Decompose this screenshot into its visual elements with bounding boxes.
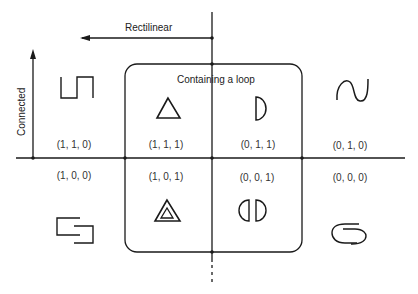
quadrant-code: (1, 1, 1) bbox=[149, 139, 183, 150]
quadrant-code: (1, 0, 1) bbox=[149, 171, 183, 182]
quadrant-code: (1, 0, 0) bbox=[57, 170, 91, 181]
triangle-icon bbox=[157, 98, 180, 118]
interlocked-curves-icon bbox=[332, 224, 366, 244]
rectilinear-label: Rectilinear bbox=[125, 22, 172, 33]
square-wave-icon bbox=[61, 77, 93, 98]
interlocked-brackets-icon bbox=[57, 218, 93, 243]
quadrant-code: (0, 1, 0) bbox=[333, 140, 367, 151]
loop-region-label: Containing a loop bbox=[177, 74, 255, 85]
triangle-icon bbox=[156, 98, 180, 118]
connected-label: Connected bbox=[16, 88, 27, 136]
quadrant-code: (1, 1, 0) bbox=[57, 139, 91, 150]
split-circle-icon bbox=[239, 200, 266, 221]
rectilinear-arrow bbox=[80, 35, 214, 41]
quadrant-code: (0, 1, 1) bbox=[241, 139, 275, 150]
d-shape-icon bbox=[256, 97, 266, 120]
quadrant-code: (0, 0, 1) bbox=[240, 172, 274, 183]
quadrant-code: (0, 0, 0) bbox=[333, 172, 367, 183]
sine-wave-icon bbox=[337, 79, 368, 101]
connected-arrow bbox=[30, 49, 36, 160]
nested-triangles-icon bbox=[155, 200, 180, 221]
